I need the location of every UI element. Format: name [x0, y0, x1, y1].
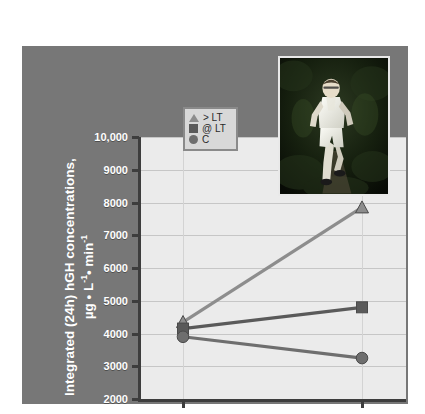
x-axis-tick-label: 1 year	[346, 409, 378, 414]
series-line-triangle	[183, 207, 362, 322]
y-axis-title-line2: µg • L-1• min-1	[79, 158, 97, 396]
data-point-circle	[356, 352, 368, 364]
runner-photo-image	[280, 58, 388, 194]
x-axis-tick-label: Baseline	[160, 409, 205, 414]
data-point-triangle	[356, 201, 369, 213]
y-axis-tick-label: 5000	[104, 295, 128, 307]
y-axis-tick	[132, 234, 139, 237]
y-axis-tick	[132, 267, 139, 270]
legend-label-at-lt: @ LT	[202, 123, 226, 134]
triangle-marker-icon	[189, 114, 199, 122]
y-axis-tick-label: 7000	[104, 229, 128, 241]
y-axis-tick-label: 8000	[104, 197, 128, 209]
series-line-square	[183, 307, 362, 328]
data-point-square	[357, 302, 368, 313]
legend-label-c: C	[202, 134, 209, 145]
y-axis-tick-label: 2000	[104, 393, 128, 405]
series-line-circle	[183, 337, 362, 358]
legend-item-gt-lt: > LT	[189, 112, 232, 123]
figure-root: Integrated (24h) hGH concentrations, µg …	[0, 0, 425, 414]
square-marker-icon	[189, 124, 198, 133]
y-axis-tick-label: 6000	[104, 262, 128, 274]
x-axis-tick	[361, 401, 364, 408]
circle-marker-icon	[189, 135, 198, 144]
y-axis-tick	[132, 136, 139, 139]
legend-item-at-lt: @ LT	[189, 123, 232, 134]
y-axis-units-sup1: -1	[79, 275, 89, 283]
y-axis-tick	[132, 333, 139, 336]
y-axis-tick-label: 4000	[104, 328, 128, 340]
y-axis-tick	[132, 365, 139, 368]
y-axis-units-sup2: -1	[79, 235, 89, 243]
y-axis-units-mid: • min	[80, 243, 95, 275]
y-axis-tick	[132, 300, 139, 303]
y-axis-tick	[132, 169, 139, 172]
figure-panel: Integrated (24h) hGH concentrations, µg …	[22, 46, 408, 404]
x-axis-tick	[182, 401, 185, 408]
legend-label-gt-lt: > LT	[203, 112, 223, 123]
y-axis-tick-label: 3000	[104, 360, 128, 372]
y-axis-title-line1: Integrated (24h) hGH concentrations,	[62, 158, 79, 396]
y-axis-tick-label: 9000	[104, 164, 128, 176]
y-axis-units-pre: µg • L	[80, 283, 95, 320]
data-point-circle	[177, 331, 189, 343]
y-axis-title: Integrated (24h) hGH concentrations, µg …	[62, 158, 97, 396]
y-axis-tick	[132, 398, 139, 401]
y-axis-tick	[132, 202, 139, 205]
runner-photo	[278, 56, 390, 196]
legend-item-c: C	[189, 134, 232, 145]
chart-legend: > LT @ LT C	[183, 107, 238, 151]
y-axis-tick-label: 10,000	[94, 131, 128, 143]
